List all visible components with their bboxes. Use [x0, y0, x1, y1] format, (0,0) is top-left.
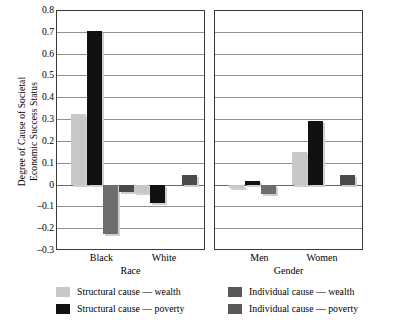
gridline — [215, 206, 362, 207]
gridline — [57, 97, 204, 98]
x-axis-title-gender: Gender — [214, 265, 363, 276]
y-tick-label: 0.1 — [20, 158, 54, 168]
x-tick-label: Women — [282, 252, 362, 263]
bar — [87, 31, 102, 185]
panel-race — [56, 10, 205, 250]
gridline — [57, 75, 204, 76]
bar — [340, 175, 355, 185]
y-tick-label: 0 — [20, 180, 54, 190]
y-tick-label: –0.1 — [20, 201, 54, 211]
y-axis-tick-labels: 0.80.70.60.50.40.30.20.10–0.1–0.2–0.3 — [20, 0, 54, 325]
gridline — [215, 75, 362, 76]
gridline — [215, 228, 362, 229]
y-tick-label: 0.5 — [20, 70, 54, 80]
gridline — [57, 54, 204, 55]
legend-swatch — [56, 304, 70, 314]
x-axis-title-race: Race — [56, 265, 205, 276]
bar — [229, 185, 244, 188]
gridline — [215, 141, 362, 142]
bar — [150, 185, 165, 204]
panel-gender — [214, 10, 363, 250]
bar — [119, 185, 134, 193]
y-tick-label: 0.3 — [20, 114, 54, 124]
y-tick-label: –0.3 — [20, 245, 54, 255]
y-tick-label: 0.8 — [20, 5, 54, 15]
gridline — [57, 32, 204, 33]
bar — [245, 181, 260, 184]
y-tick-label: 0.2 — [20, 136, 54, 146]
bar — [182, 175, 197, 185]
gridline — [215, 119, 362, 120]
legend-swatch — [56, 287, 70, 297]
gridline — [57, 206, 204, 207]
legend-swatch — [228, 304, 242, 314]
legend-label: Individual cause — poverty — [249, 302, 358, 316]
legend-label: Structural cause — wealth — [77, 285, 181, 299]
gridline — [215, 54, 362, 55]
legend-label: Individual cause — wealth — [249, 285, 354, 299]
legend-swatch — [228, 287, 242, 297]
gridline — [215, 97, 362, 98]
gridline — [57, 228, 204, 229]
gridline — [215, 32, 362, 33]
gridline — [215, 163, 362, 164]
bar-chart: Degree of Cause of Societal Economic Suc… — [0, 0, 420, 325]
y-tick-label: 0.6 — [20, 49, 54, 59]
legend-label: Structural cause — poverty — [77, 302, 184, 316]
y-tick-label: –0.2 — [20, 223, 54, 233]
bar — [292, 152, 307, 185]
x-tick-label: White — [124, 252, 204, 263]
bar — [134, 185, 149, 194]
y-tick-label: 0.7 — [20, 27, 54, 37]
bar — [71, 114, 86, 185]
bar — [261, 185, 276, 195]
bar — [103, 185, 118, 234]
bar — [308, 121, 323, 184]
y-tick-label: 0.4 — [20, 92, 54, 102]
